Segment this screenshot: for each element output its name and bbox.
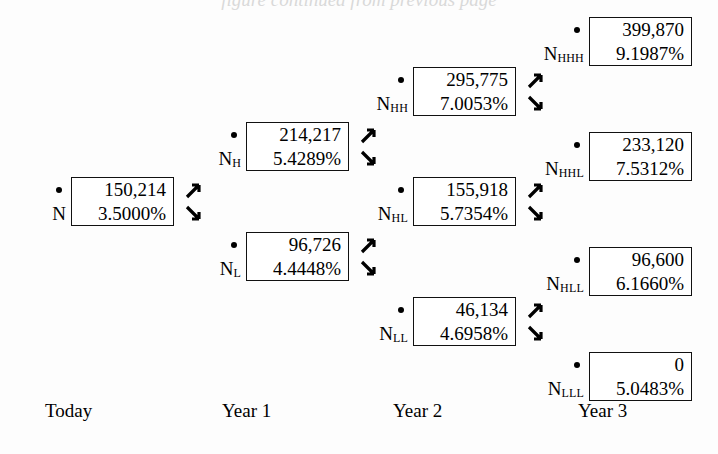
node-value-NHL: 155,918 [414,178,515,202]
node-label-NHLL: NHLL [546,272,584,296]
node-value-NLLL: 0 [590,353,691,377]
node-marker-NL: NL [185,232,246,281]
bullet-point-icon [574,133,584,157]
arrow-down-right-icon [184,202,204,224]
branch-arrows-NH [349,122,383,171]
node-label-subscript: L [233,267,241,279]
node-rate-NH: 5.4289% [247,147,348,171]
bullet-dot [574,257,580,263]
arrow-up-right-icon [184,180,204,202]
node-value-NHLL: 96,600 [590,248,691,272]
node-label-base: N [377,94,391,113]
tree-node-NH: NH214,2175.4289% [185,122,383,171]
arrow-up-right-icon [526,180,546,202]
node-label-NHL: NHL [378,202,408,226]
arrow-down-right-icon [359,147,379,169]
node-label-base: N [378,204,392,223]
branch-arrows-NL [349,232,383,281]
node-value-NLL: 46,134 [414,298,515,322]
node-value-NHHL: 233,120 [590,133,691,157]
bullet-dot [56,187,62,193]
branch-arrows-NHH [516,67,550,116]
node-label-subscript: HHH [557,52,584,64]
node-label-subscript: HL [392,212,408,224]
bullet-dot [574,27,580,33]
node-label-NLLL: NLLL [548,377,584,401]
tree-node-NLLL: NLLL05.0483% [528,352,692,401]
node-box-NLLL: 05.0483% [589,352,692,401]
node-box-NL: 96,7264.4448% [246,232,349,281]
node-label-subscript: HH [390,102,408,114]
branch-arrows-NHL [516,177,550,226]
node-marker-NHHH: NHHH [528,17,589,66]
node-box-NHHL: 233,1207.5312% [589,132,692,181]
node-marker-NHHL: NHHL [528,132,589,181]
node-box-NHHH: 399,8709.1987% [589,17,692,66]
node-rate-NHHH: 9.1987% [590,42,691,66]
binomial-tree-figure: figure continued from previous page N150… [0,0,718,454]
bullet-dot [574,362,580,368]
arrow-up-right-icon [359,125,379,147]
arrow-up-right-icon [359,235,379,257]
bullet-dot [231,132,237,138]
node-value-N: 150,214 [72,178,173,202]
period-label-3: Year 3 [578,401,627,420]
node-marker-NH: NH [185,122,246,171]
node-value-NHH: 295,775 [414,68,515,92]
arrow-down-right-icon [526,202,546,224]
node-rate-NHH: 7.0053% [414,92,515,116]
node-value-NHHH: 399,870 [590,18,691,42]
node-rate-NHL: 5.7354% [414,202,515,226]
node-box-NH: 214,2175.4289% [246,122,349,171]
bullet-point-icon [398,298,408,322]
node-marker-NLL: NLL [352,297,413,346]
node-box-NHLL: 96,6006.1660% [589,247,692,296]
node-label-base: N [218,149,232,168]
node-label-subscript: HHL [559,167,584,179]
bullet-point-icon [574,18,584,42]
branch-arrows-NLL [516,297,550,346]
tree-node-NHH: NHH295,7757.0053% [352,67,550,116]
node-label-base: N [52,204,66,223]
node-label-NHHH: NHHH [544,42,584,66]
node-box-NHL: 155,9185.7354% [413,177,516,226]
bullet-point-icon [398,178,408,202]
node-label-base: N [548,379,562,398]
bullet-point-icon [231,123,241,147]
arrow-down-right-icon [526,322,546,344]
node-rate-NHHL: 7.5312% [590,157,691,181]
bullet-point-icon [398,68,408,92]
node-label-NHHL: NHHL [545,157,584,181]
node-label-base: N [220,259,234,278]
node-label-subscript: HLL [560,282,584,294]
node-rate-NLLL: 5.0483% [590,377,691,401]
branch-arrows-N [174,177,208,226]
node-rate-NLL: 4.6958% [414,322,515,346]
bullet-point-icon [574,353,584,377]
bullet-dot [574,142,580,148]
node-marker-NHL: NHL [352,177,413,226]
tree-node-NHLL: NHLL96,6006.1660% [528,247,692,296]
node-value-NH: 214,217 [247,123,348,147]
tree-node-N: N150,2143.5000% [10,177,208,226]
bullet-point-icon [56,178,66,202]
node-rate-N: 3.5000% [72,202,173,226]
bullet-dot [398,307,404,313]
node-label-NHH: NHH [377,92,408,116]
node-label-subscript: H [232,157,241,169]
period-label-1: Year 1 [222,401,271,420]
arrow-down-right-icon [526,92,546,114]
tree-node-NLL: NLL46,1344.6958% [352,297,550,346]
tree-node-NHHL: NHHL233,1207.5312% [528,132,692,181]
node-label-NL: NL [220,257,241,281]
node-label-base: N [379,324,393,343]
node-marker-N: N [10,177,71,226]
bullet-point-icon [574,248,584,272]
node-box-N: 150,2143.5000% [71,177,174,226]
node-label-base: N [544,44,558,63]
node-label-base: N [546,274,560,293]
arrow-up-right-icon [526,300,546,322]
cropped-heading-ghost: figure continued from previous page [0,0,718,11]
node-marker-NHH: NHH [352,67,413,116]
node-label-base: N [545,159,559,178]
